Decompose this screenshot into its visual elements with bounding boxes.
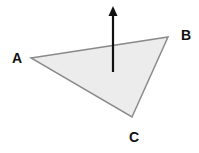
vertex-label-c: C <box>129 129 139 145</box>
vertex-label-b: B <box>181 27 191 43</box>
triangle-abc <box>31 37 168 117</box>
normal-arrow-head <box>109 6 118 16</box>
vertex-label-a: A <box>12 50 22 66</box>
triangle-normal-diagram: A B C <box>0 0 199 153</box>
